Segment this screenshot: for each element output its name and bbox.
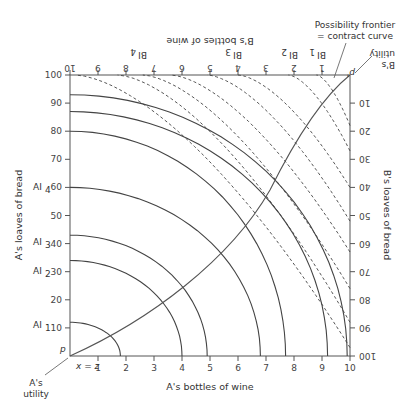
a-indifference-curves — [70, 95, 347, 356]
svg-text:utility: utility — [369, 49, 395, 59]
tick-label: 7 — [151, 63, 157, 73]
tick-label: 3 — [151, 363, 157, 373]
tick-label: 40 — [359, 182, 371, 192]
a-level-label-2: AI 2 — [33, 266, 51, 279]
bottom-axis-title: A's bottles of wine — [166, 381, 253, 392]
tick-label: 8 — [123, 63, 129, 73]
tick-label: 6 — [235, 363, 241, 373]
a-indifference-curve — [70, 187, 260, 356]
tick-label: 20 — [51, 295, 63, 305]
a-utility-label-1: A's — [29, 378, 43, 388]
tick-label: 9 — [95, 63, 101, 73]
svg-text:AI: AI — [33, 320, 42, 330]
a-indifference-curve — [70, 322, 120, 356]
b-indifference-curve — [118, 75, 350, 322]
tick-label: 50 — [51, 211, 63, 221]
a-level-label-1: AI 1 — [33, 320, 51, 333]
tick-label: 4 — [179, 363, 185, 373]
tick-label: 80 — [359, 295, 371, 305]
a-level-label-4: AI 4 — [33, 182, 51, 195]
b-utility-label: B's utility — [369, 49, 395, 70]
svg-text:BI: BI — [233, 50, 242, 60]
svg-text:p': p' — [347, 68, 356, 78]
svg-text:B's: B's — [381, 60, 395, 70]
svg-text:AI: AI — [33, 182, 42, 192]
edgeworth-box-diagram: 12345678910 102030405060708090100 123456… — [0, 0, 409, 406]
a-utility-label-2: utility — [23, 389, 49, 399]
svg-text:AI: AI — [33, 266, 42, 276]
svg-text:3: 3 — [225, 47, 231, 57]
b-indifference-curve — [171, 75, 350, 252]
a-utility-pointer — [45, 358, 68, 375]
tick-label: 9 — [319, 363, 325, 373]
tick-label: 30 — [359, 154, 371, 164]
a-indifference-curve — [70, 112, 328, 357]
svg-text:BI: BI — [289, 50, 298, 60]
svg-text:1: 1 — [45, 323, 51, 333]
tick-label: 5 — [207, 363, 213, 373]
tick-label: 50 — [359, 211, 371, 221]
svg-text:4: 4 — [45, 185, 51, 195]
svg-text:AI: AI — [33, 237, 42, 247]
b-indifference-curve — [238, 75, 350, 187]
a-indifference-curve — [70, 235, 207, 356]
svg-text:2: 2 — [281, 47, 287, 57]
a-indifference-curve — [70, 131, 286, 356]
tick-label: 20 — [359, 126, 371, 136]
box-frame — [70, 75, 350, 356]
frontier-label-2: = contract curve — [317, 31, 393, 41]
frontier-label-1: Possibility frontier — [315, 20, 396, 30]
b-indifference-curve — [316, 75, 350, 126]
b-level-label-2: BI 2 — [281, 47, 298, 60]
tick-label: 7 — [263, 363, 269, 373]
tick-label: 4 — [235, 63, 241, 73]
tick-label: 10 — [64, 63, 76, 73]
tick-label: 2 — [291, 63, 297, 73]
a-origin-label: p — [59, 344, 66, 354]
svg-text:3: 3 — [45, 240, 51, 250]
tick-label: 8 — [291, 363, 297, 373]
tick-label: 10 — [344, 363, 356, 373]
tick-label: 90 — [51, 98, 63, 108]
tick-label: 1 — [319, 63, 325, 73]
b-level-label-1: BI 1 — [309, 47, 326, 60]
svg-text:4: 4 — [130, 47, 136, 57]
top-axis-ticks: 12345678910 — [64, 63, 325, 75]
x-equals-z-label: x = z — [75, 361, 100, 371]
left-axis-title: A's loaves of bread — [13, 170, 24, 260]
tick-label: 100 — [359, 351, 376, 361]
b-indifference-curve — [143, 75, 350, 289]
a-level-label-3: AI 3 — [33, 237, 51, 250]
tick-label: 2 — [123, 363, 129, 373]
frontier-pointer — [334, 43, 346, 78]
svg-text:1: 1 — [309, 47, 315, 57]
bottom-axis-ticks: 12345678910 — [95, 356, 356, 373]
b-level-label-4: BI 4 — [130, 47, 147, 60]
tick-label: 80 — [51, 126, 63, 136]
tick-label: 60 — [359, 239, 371, 249]
left-axis-ticks: 102030405060708090100 — [45, 70, 70, 333]
top-axis-title: B's bottles of wine — [166, 36, 253, 47]
svg-text:BI: BI — [317, 50, 326, 60]
tick-label: 70 — [51, 154, 63, 164]
tick-label: 3 — [263, 63, 269, 73]
contract-curve — [70, 75, 350, 356]
tick-label: 60 — [51, 182, 63, 192]
tick-label: 10 — [359, 98, 371, 108]
right-axis-title: B's loaves of bread — [382, 170, 393, 260]
svg-text:BI: BI — [138, 50, 147, 60]
svg-text:2: 2 — [45, 269, 51, 279]
tick-label: 30 — [51, 267, 63, 277]
tick-label: 90 — [359, 323, 371, 333]
tick-label: 70 — [359, 267, 371, 277]
b-level-label-3: BI 3 — [225, 47, 242, 60]
tick-label: 40 — [51, 239, 63, 249]
tick-label: 6 — [179, 63, 185, 73]
a-indifference-curve — [70, 261, 182, 357]
tick-label: 10 — [51, 323, 63, 333]
tick-label: 100 — [45, 70, 62, 80]
a-indifference-curve — [70, 95, 347, 356]
tick-label: 5 — [207, 63, 213, 73]
b-origin-label: p' — [347, 68, 356, 78]
right-axis-ticks: 102030405060708090100 — [350, 98, 376, 361]
